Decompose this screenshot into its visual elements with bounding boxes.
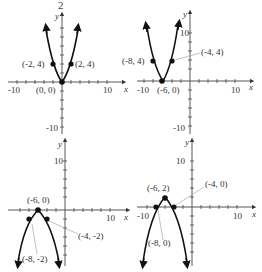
- point-label: (-4, 4): [201, 47, 224, 57]
- y-axis-label: y: [54, 11, 59, 21]
- point-label: (-6, 0): [27, 195, 50, 205]
- x-axis-label: x: [248, 82, 253, 92]
- panel-bottom-right: x y -10 10 10 (-6, 2) (-4, 0) (-8, 0): [137, 137, 256, 266]
- y-tick-label: 10: [180, 28, 190, 38]
- x-axis-label: x: [251, 209, 256, 219]
- x-axis-label: x: [123, 212, 128, 222]
- point: [68, 61, 73, 66]
- parabola-graphs: 2 x y -10 10 -10 (-2, 4) (2, 4) (0, 0): [0, 0, 262, 272]
- point-label: (-8, 4): [122, 56, 145, 66]
- point: [26, 216, 31, 221]
- point: [169, 58, 174, 63]
- point-label: (-6, 0): [157, 85, 180, 95]
- vertex-point: [59, 79, 65, 85]
- x-axis-label: x: [123, 84, 128, 94]
- y-axis-label: y: [184, 137, 189, 147]
- header-fragment: 2: [58, 0, 64, 11]
- vertex-point: [35, 207, 41, 213]
- point-label: (-2, 4): [22, 59, 45, 69]
- panel-bottom-left: x y 10 10 (-6, 0) (-4, -2) (-8, -2): [8, 139, 128, 266]
- y-tick-label: 10: [54, 156, 64, 166]
- x-tick-label: 10: [231, 85, 241, 95]
- parabola-curve: [147, 25, 178, 81]
- x-tick-label: 10: [103, 85, 113, 95]
- panel-top-left: x y -10 10 -10 (-2, 4) (2, 4) (0, 0): [8, 11, 128, 134]
- point-label: (-8, 0): [148, 238, 171, 248]
- y-tick-label: 10: [176, 156, 186, 166]
- point: [150, 58, 155, 63]
- point-label: (-8, -2): [22, 254, 48, 264]
- point-label: (2, 4): [75, 59, 95, 69]
- x-tick-label: -10: [8, 85, 20, 95]
- vertex-point: [159, 78, 165, 84]
- y-tick-label: -10: [46, 123, 58, 133]
- x-tick-label: 10: [233, 211, 243, 221]
- y-axis-label: y: [182, 9, 187, 19]
- point-label: (-4, -2): [78, 231, 104, 241]
- point: [153, 204, 158, 209]
- x-tick-label: 10: [106, 213, 116, 223]
- vertex-point: [162, 195, 168, 201]
- point: [50, 61, 55, 66]
- point-label: (-4, 0): [205, 179, 228, 189]
- y-axis-label: y: [57, 139, 62, 149]
- point: [44, 216, 49, 221]
- x-tick-label: -10: [137, 85, 149, 95]
- point-label: (0, 0): [36, 85, 56, 95]
- point: [171, 204, 176, 209]
- y-tick-label: -10: [173, 123, 185, 133]
- panel-top-right: x y -10 10 10 -10 (-8, 4) (-4, 4) (-6, 0…: [122, 9, 253, 134]
- point-label: (-6, 2): [147, 183, 170, 193]
- x-tick-label: -10: [137, 211, 149, 221]
